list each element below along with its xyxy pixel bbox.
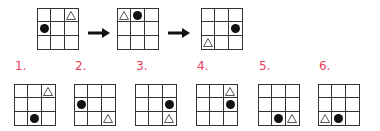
- grid-cell: [202, 9, 215, 22]
- grid-cell: [163, 85, 176, 98]
- grid-cell: [88, 98, 101, 111]
- option-label-3: 3.: [136, 59, 147, 73]
- grid-cell: [259, 112, 272, 125]
- grid-cell: [15, 85, 28, 98]
- grid-cell: [346, 98, 359, 111]
- grid-cell: [163, 112, 176, 125]
- grid-cell: [149, 85, 162, 98]
- grid-cell: [272, 112, 285, 125]
- grid-cell: [197, 112, 210, 125]
- grid-cell: [259, 98, 272, 111]
- grid-cell: [259, 85, 272, 98]
- sequence-grid-3: [201, 8, 243, 50]
- grid-cell: [118, 36, 131, 49]
- grid-cell: [145, 36, 158, 49]
- right-arrow-icon: [88, 23, 110, 42]
- black-circle-icon: [274, 114, 283, 123]
- grid-cell: [224, 85, 237, 98]
- grid-cell: [42, 98, 55, 111]
- grid-cell: [197, 98, 210, 111]
- grid-cell: [42, 85, 55, 98]
- triangle-outline-icon: [287, 109, 298, 128]
- grid-cell: [136, 85, 149, 98]
- grid-cell: [210, 112, 223, 125]
- option-label-6: 6.: [319, 59, 330, 73]
- triangle-outline-icon: [320, 109, 331, 128]
- sequence-grid-1: [37, 8, 79, 50]
- triangle-outline-icon: [103, 109, 114, 128]
- grid-cell: [197, 85, 210, 98]
- grid-cell: [149, 112, 162, 125]
- grid-cell: [51, 9, 64, 22]
- grid-cell: [118, 22, 131, 35]
- grid-cell: [88, 85, 101, 98]
- option-grid-6: [318, 84, 360, 126]
- grid-cell: [210, 85, 223, 98]
- grid-cell: [38, 36, 51, 49]
- grid-cell: [272, 85, 285, 98]
- triangle-outline-icon: [164, 109, 175, 128]
- grid-cell: [215, 22, 228, 35]
- grid-cell: [38, 22, 51, 35]
- grid-cell: [51, 22, 64, 35]
- option-label-1: 1.: [15, 59, 26, 73]
- grid-cell: [319, 85, 332, 98]
- grid-cell: [38, 9, 51, 22]
- option-grid-5: [258, 84, 300, 126]
- grid-cell: [28, 112, 41, 125]
- grid-cell: [75, 112, 88, 125]
- option-label-4: 4.: [197, 59, 208, 73]
- grid-cell: [215, 36, 228, 49]
- grid-cell: [224, 112, 237, 125]
- grid-cell: [202, 36, 215, 49]
- grid-cell: [224, 98, 237, 111]
- black-circle-icon: [226, 100, 235, 109]
- grid-cell: [42, 112, 55, 125]
- grid-cell: [229, 36, 242, 49]
- grid-cell: [75, 98, 88, 111]
- grid-cell: [145, 22, 158, 35]
- black-circle-icon: [133, 11, 142, 20]
- option-grid-1: [14, 84, 56, 126]
- option-grid-4: [196, 84, 238, 126]
- grid-cell: [229, 9, 242, 22]
- grid-cell: [145, 9, 158, 22]
- black-circle-icon: [231, 24, 240, 33]
- option-label-5: 5.: [259, 59, 270, 73]
- grid-cell: [210, 98, 223, 111]
- right-arrow-icon: [168, 23, 190, 42]
- grid-cell: [131, 36, 144, 49]
- black-circle-icon: [30, 114, 39, 123]
- black-circle-icon: [334, 114, 343, 123]
- black-circle-icon: [165, 100, 174, 109]
- option-grid-2: [74, 84, 116, 126]
- black-circle-icon: [40, 24, 49, 33]
- grid-cell: [136, 98, 149, 111]
- grid-cell: [272, 98, 285, 111]
- grid-cell: [131, 22, 144, 35]
- grid-cell: [102, 112, 115, 125]
- grid-cell: [286, 112, 299, 125]
- grid-cell: [131, 9, 144, 22]
- grid-cell: [286, 85, 299, 98]
- option-grid-3: [135, 84, 177, 126]
- grid-cell: [65, 22, 78, 35]
- grid-cell: [118, 9, 131, 22]
- grid-cell: [51, 36, 64, 49]
- option-label-2: 2.: [75, 59, 86, 73]
- black-circle-icon: [77, 100, 86, 109]
- grid-cell: [136, 112, 149, 125]
- grid-cell: [319, 112, 332, 125]
- grid-cell: [28, 98, 41, 111]
- grid-cell: [346, 112, 359, 125]
- grid-cell: [215, 9, 228, 22]
- grid-cell: [28, 85, 41, 98]
- grid-cell: [332, 85, 345, 98]
- grid-cell: [149, 98, 162, 111]
- grid-cell: [65, 9, 78, 22]
- grid-cell: [15, 98, 28, 111]
- grid-cell: [229, 22, 242, 35]
- grid-cell: [346, 85, 359, 98]
- grid-cell: [332, 98, 345, 111]
- grid-cell: [88, 112, 101, 125]
